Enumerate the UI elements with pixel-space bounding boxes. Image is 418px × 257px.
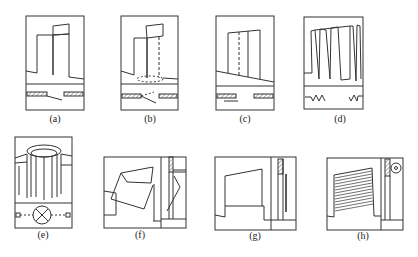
panel-b-spring-door — [121, 16, 178, 110]
label-h: (h) — [357, 230, 369, 241]
panel-d-folding-door — [304, 17, 363, 109]
panel-c-sliding-door — [216, 16, 274, 110]
panel-a-swing-door — [26, 16, 84, 110]
panel-h-rolling-shutter — [327, 158, 403, 230]
label-c: (c) — [239, 113, 250, 124]
label-f: (f) — [135, 229, 145, 240]
label-a: (a) — [49, 113, 60, 124]
label-d: (d) — [334, 113, 346, 124]
panel-f-flap-up-door — [104, 157, 186, 228]
panel-e-revolving-door — [15, 137, 72, 228]
door-types-figure: (a) (b) (c) (d) (e) (f) (g) (h) — [0, 0, 418, 257]
door-diagrams — [0, 0, 418, 257]
label-b: (b) — [144, 113, 156, 124]
label-g: (g) — [249, 230, 261, 241]
panel-g-lift-door — [215, 157, 296, 230]
label-e: (e) — [37, 229, 48, 240]
